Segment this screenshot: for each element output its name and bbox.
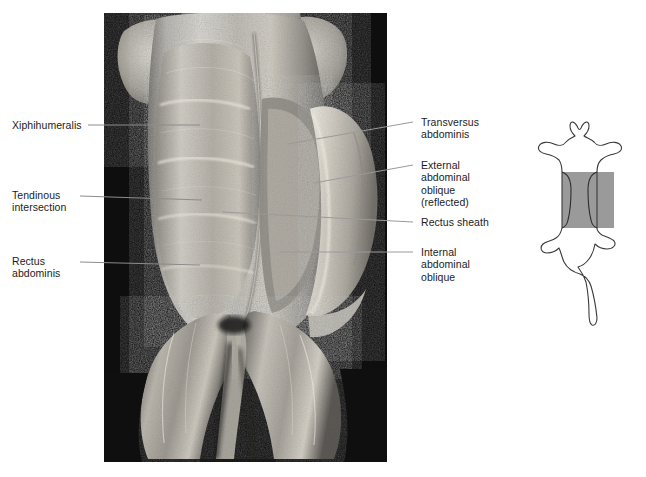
label-xiphihumeralis: Xiphihumeralis [12, 119, 98, 131]
label-rectus-abdominis: Rectus abdominis [12, 255, 92, 280]
label-internal-abdominal-oblique: Internal abdominal oblique [421, 246, 517, 283]
label-external-abdominal-oblique: External abdominal oblique (reflected) [421, 159, 517, 209]
cat-orientation-silhouette [528, 112, 640, 327]
anatomy-figure: Xiphihumeralis Tendinous intersection Re… [0, 0, 646, 477]
label-transversus-abdominis: Transversus abdominis [421, 116, 517, 141]
label-rectus-sheath: Rectus sheath [421, 216, 521, 228]
label-tendinous-intersection: Tendinous intersection [12, 189, 104, 214]
orientation-icon-graphic [528, 112, 640, 327]
dissection-photo-graphic [104, 13, 387, 462]
abdominal-wall-dissection-photo [104, 13, 387, 462]
